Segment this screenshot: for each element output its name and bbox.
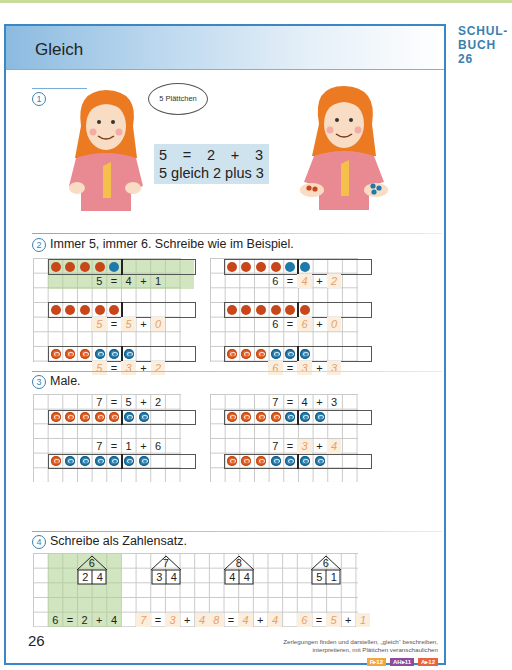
equation-cell: 5 xyxy=(92,317,107,332)
equation-cell: + xyxy=(341,613,356,628)
equation-cell: 2 xyxy=(151,361,166,376)
equation-cell: 5 xyxy=(121,395,136,410)
house-right: 4 xyxy=(167,570,182,585)
equation-cell: 4 xyxy=(121,274,136,289)
equation-cell: 7 xyxy=(136,613,151,628)
equation-cell: + xyxy=(136,317,151,332)
equation-cell: 6 xyxy=(151,439,166,454)
counter-red-icon xyxy=(51,262,61,272)
counter-red-icon xyxy=(51,349,61,359)
curriculum-note: Zerlegungen finden und darstellen, „glei… xyxy=(178,638,438,654)
five-divider xyxy=(121,454,122,470)
counter-red-icon xyxy=(256,349,266,359)
equation-cell: 3 xyxy=(327,395,342,410)
page-header: Gleich xyxy=(6,26,444,70)
equation-cell: + xyxy=(180,613,195,628)
equation-cell: 6 xyxy=(297,613,312,628)
speech-bubble: 5 Plättchen xyxy=(148,83,208,115)
equation-cell: 6 xyxy=(48,613,63,628)
equation-cell: 5 xyxy=(92,361,107,376)
eq-term: = xyxy=(183,146,191,164)
top-strip xyxy=(0,0,512,3)
equation-cell: = xyxy=(107,439,122,454)
five-divider xyxy=(121,346,122,362)
equation-words: 5 gleich 2 plus 3 xyxy=(159,164,264,182)
equation-cell: + xyxy=(312,395,327,410)
equation-cell: = xyxy=(283,274,298,289)
note-line2: interpretieren, mit Plättchen veranschau… xyxy=(178,646,438,654)
section-divider xyxy=(32,371,442,372)
page-title: Gleich xyxy=(35,40,83,60)
counter-red-icon xyxy=(95,305,105,315)
eq-term: 3 xyxy=(255,146,263,164)
five-divider xyxy=(297,302,298,318)
house-roof: 6 xyxy=(85,557,100,569)
house-left: 3 xyxy=(152,570,167,585)
eq-term: 2 xyxy=(207,146,215,164)
counter-red-icon xyxy=(95,262,105,272)
equation-cell: 5 xyxy=(326,613,341,628)
equation-cell: 7 xyxy=(268,395,283,410)
house-right: 4 xyxy=(240,570,255,585)
worksheet-page: Gleich 1 5 Plättchen 5 = 2 + 3 5 gleich … xyxy=(4,24,446,665)
equation-cell: = xyxy=(107,395,122,410)
five-divider xyxy=(297,454,298,470)
girl-fists-illustration xyxy=(61,86,151,211)
equation-cell: 1 xyxy=(121,439,136,454)
house-roof: 7 xyxy=(159,557,174,569)
equation-cell: 0 xyxy=(327,317,342,332)
equation-cell: 4 xyxy=(268,613,283,628)
equation-cell: 4 xyxy=(195,613,210,628)
equation-cell: 3 xyxy=(165,613,180,628)
equation-cell: = xyxy=(107,317,122,332)
task2-instruction: Immer 5, immer 6. Schreibe wie im Beispi… xyxy=(50,237,294,251)
counter-red-icon xyxy=(271,262,281,272)
house-right: 1 xyxy=(327,570,342,585)
equation-cell: 2 xyxy=(77,613,92,628)
equation-cell: 2 xyxy=(327,274,342,289)
counter-red-icon xyxy=(227,305,237,315)
house-left: 4 xyxy=(225,570,240,585)
equation-cell: = xyxy=(312,613,327,628)
counter-blue-icon xyxy=(95,349,105,359)
badge-ah: AH▸11 xyxy=(390,658,414,666)
equation-cell: 1 xyxy=(356,613,371,628)
equation-cell: = xyxy=(224,613,239,628)
equation-cell: 0 xyxy=(151,317,166,332)
counter-blue-icon xyxy=(271,349,281,359)
equation-cell: 7 xyxy=(268,439,283,454)
page-number: 26 xyxy=(28,632,45,649)
equation-cell: 3 xyxy=(121,361,136,376)
equation-cell: 6 xyxy=(268,274,283,289)
equation-cell: + xyxy=(136,361,151,376)
counter-blue-icon xyxy=(300,262,310,272)
eq-term: + xyxy=(231,146,239,164)
equation-cell: = xyxy=(107,361,122,376)
equation-cell: = xyxy=(283,439,298,454)
counter-red-icon xyxy=(227,349,237,359)
task-number-1: 1 xyxy=(32,92,46,106)
reference-badges: F▸12 AH▸11 A▸12 xyxy=(367,658,438,666)
equation-cell: 7 xyxy=(92,439,107,454)
equation-cell: + xyxy=(253,613,268,628)
equation-cell: = xyxy=(63,613,78,628)
task-number-2: 2 xyxy=(32,238,46,252)
house-right: 4 xyxy=(93,570,108,585)
equation-cell: 3 xyxy=(297,361,312,376)
equation-cell: 8 xyxy=(209,613,224,628)
equation-cell: = xyxy=(107,274,122,289)
equation-cell: 2 xyxy=(151,395,166,410)
five-divider xyxy=(297,410,298,426)
counter-red-icon xyxy=(51,305,61,315)
side-label-line1: SCHUL- xyxy=(458,24,512,38)
equation-cell: = xyxy=(283,361,298,376)
counter-red-icon xyxy=(300,305,310,315)
badge-f: F▸12 xyxy=(367,658,386,666)
equation-cell: + xyxy=(312,274,327,289)
section-divider xyxy=(32,233,442,234)
equation-cell: 4 xyxy=(107,613,122,628)
house-left: 5 xyxy=(312,570,327,585)
equation-cell: + xyxy=(312,439,327,454)
badge-a: A▸12 xyxy=(418,658,438,666)
equation-cell: 4 xyxy=(297,274,312,289)
